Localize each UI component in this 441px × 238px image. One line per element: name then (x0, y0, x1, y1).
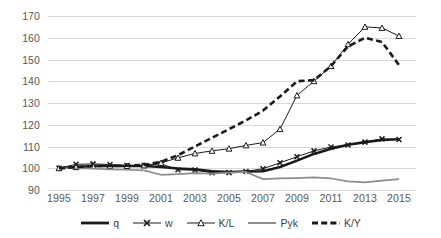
x-tick-2005: 2005 (217, 192, 241, 204)
y-tick-160: 160 (22, 32, 40, 44)
y-tick-170: 170 (22, 10, 40, 22)
y-tick-110: 110 (23, 141, 40, 153)
x-tick-1999: 1999 (115, 192, 139, 204)
y-tick-140: 140 (22, 75, 40, 87)
marker-x-2008 (278, 160, 283, 165)
legend-label: w (165, 217, 173, 229)
legend-swatch-gray-line (247, 217, 277, 229)
legend-swatch-triangle-marker-line (186, 217, 216, 229)
legend-item-w[interactable]: w (132, 217, 173, 229)
y-tick-100: 100 (22, 162, 40, 174)
x-tick-2013: 2013 (353, 192, 377, 204)
legend-item-Pyk[interactable]: Pyk (247, 217, 298, 229)
series-layer (48, 10, 416, 195)
marker-x-2009 (295, 154, 300, 159)
x-tick-2015: 2015 (387, 192, 411, 204)
series-line-Pyk (59, 168, 399, 182)
chart-legend: qwK/LPykK/Y (0, 210, 441, 236)
x-tick-2011: 2011 (320, 192, 343, 204)
legend-label: K/L (219, 217, 235, 229)
marker-triangle-2015 (396, 33, 402, 38)
x-tick-2003: 2003 (183, 192, 207, 204)
legend-swatch-x-marker-line (132, 217, 162, 229)
series-Pyk (59, 168, 399, 182)
series-K-L (56, 24, 402, 171)
marker-triangle-2008 (277, 126, 283, 131)
plot-area (48, 10, 416, 195)
legend-label: Pyk (280, 217, 298, 229)
legend-label: q (113, 217, 119, 229)
x-tick-2001: 2001 (149, 192, 173, 204)
x-tick-2007: 2007 (251, 192, 275, 204)
legend-item-K-Y[interactable]: K/Y (311, 217, 361, 229)
x-axis-tick-labels: 1995199719992001200320052007200920112013… (0, 190, 441, 210)
x-tick-2009: 2009 (285, 192, 309, 204)
legend-swatch-thick-line (80, 217, 110, 229)
y-axis-tick-labels: 90100110120130140150160170 (0, 0, 46, 205)
x-tick-1995: 1995 (47, 192, 71, 204)
legend-item-K-L[interactable]: K/L (186, 217, 235, 229)
legend-item-q[interactable]: q (80, 217, 119, 229)
line-chart: 90100110120130140150160170 1995199719992… (0, 0, 441, 238)
y-tick-150: 150 (22, 54, 40, 66)
legend-swatch-dashed-line (311, 217, 341, 229)
legend-label: K/Y (344, 217, 361, 229)
y-tick-130: 130 (22, 97, 40, 109)
x-tick-1997: 1997 (81, 192, 105, 204)
y-tick-120: 120 (22, 119, 40, 131)
